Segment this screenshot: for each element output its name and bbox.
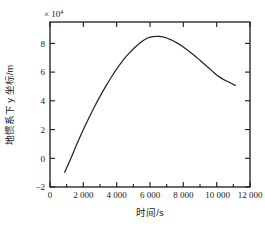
x-axis-top-ticks xyxy=(50,22,250,27)
y-tick-label: 2 xyxy=(41,125,46,135)
exponent-base: × 10 xyxy=(44,9,61,19)
y-axis-exponent-label: × 104 xyxy=(44,9,63,20)
y-tick-label: 0 xyxy=(41,154,46,164)
y-axis-title: 地惯系下 y 坐标/m xyxy=(4,65,15,146)
x-axis-ticks xyxy=(50,182,250,187)
x-tick-label: 6 000 xyxy=(140,190,161,200)
y-tick-label: 6 xyxy=(41,67,46,77)
chart-svg: × 104 xyxy=(0,0,265,228)
chart-figure: × 104 xyxy=(0,0,265,228)
x-tick-label: 2 000 xyxy=(73,190,94,200)
y-axis-tick-labels: −2 0 2 4 6 8 xyxy=(35,39,45,192)
y-tick-label: 4 xyxy=(41,96,46,106)
exponent-power: 4 xyxy=(60,9,63,15)
x-tick-label: 0 xyxy=(48,190,53,200)
y-tick-label: −2 xyxy=(35,182,45,192)
x-axis-title: 时间/s xyxy=(136,207,164,218)
x-tick-label: 12 000 xyxy=(238,190,263,200)
plot-frame xyxy=(50,22,250,187)
y-axis-right-ticks xyxy=(245,43,250,187)
y-tick-label: 8 xyxy=(41,39,46,49)
x-tick-label: 4 000 xyxy=(107,190,128,200)
x-tick-label: 10 000 xyxy=(205,190,230,200)
x-tick-label: 8 000 xyxy=(173,190,194,200)
y-axis-ticks xyxy=(50,43,55,187)
data-series-line xyxy=(65,36,236,172)
x-axis-tick-labels: 0 2 000 4 000 6 000 8 000 10 000 12 000 xyxy=(48,190,263,200)
